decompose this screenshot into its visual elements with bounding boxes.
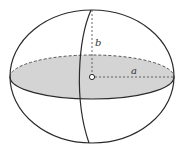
center-point	[89, 74, 94, 79]
label-a: a	[131, 65, 137, 76]
label-b: b	[95, 37, 101, 48]
ellipsoid-diagram: b a	[0, 0, 180, 151]
